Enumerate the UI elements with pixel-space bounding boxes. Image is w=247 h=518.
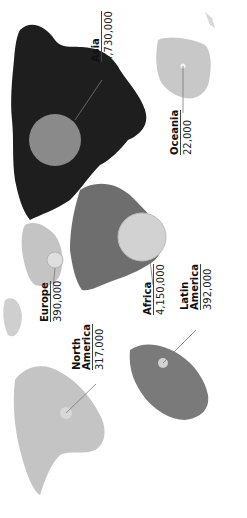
north-america-name-line2: America — [82, 324, 92, 370]
europe-bubble — [47, 252, 63, 268]
latin-america-landmass — [130, 345, 209, 420]
north-america-label: North America 317,000 — [72, 324, 105, 370]
latin-america-name-line2: America — [190, 264, 200, 310]
north-america-value: 317,000 — [92, 324, 105, 370]
map-canvas — [0, 0, 247, 518]
oceania-name: Oceania — [170, 110, 180, 155]
africa-label: Africa 4,150,000 — [143, 264, 166, 315]
world-map: Asia 4,730,000 Oceania 22,000 Africa 4,1… — [0, 0, 247, 518]
asia-landmass — [11, 25, 146, 220]
latin-america-value: 392,000 — [200, 264, 213, 310]
africa-bubble — [118, 213, 166, 261]
latin-america-label: Latin America 392,000 — [180, 264, 213, 310]
greenland-landmass — [3, 298, 22, 336]
asia-label: Asia 4,730,000 — [91, 11, 114, 62]
oceania-value: 22,000 — [180, 110, 193, 155]
asia-name: Asia — [91, 11, 101, 62]
north-america-landmass — [14, 366, 105, 495]
europe-value: 390,000 — [50, 281, 63, 322]
new-zealand-landmass — [205, 12, 215, 28]
asia-value: 4,730,000 — [101, 11, 114, 62]
asia-bubble — [29, 114, 81, 166]
africa-name: Africa — [143, 264, 153, 315]
europe-name: Europe — [40, 281, 50, 322]
europe-label: Europe 390,000 — [40, 281, 63, 322]
oceania-label: Oceania 22,000 — [170, 110, 193, 155]
africa-value: 4,150,000 — [153, 264, 166, 315]
